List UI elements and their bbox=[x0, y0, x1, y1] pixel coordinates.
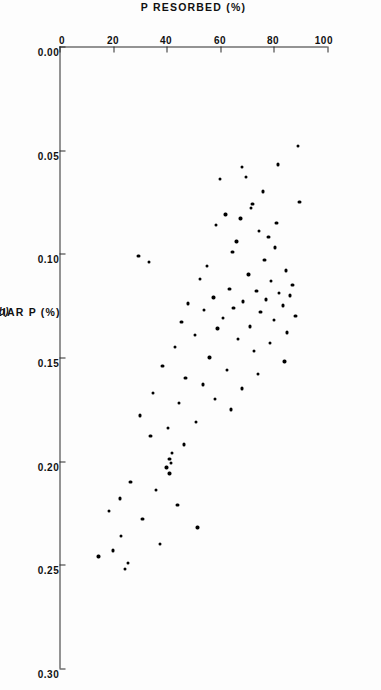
data-point bbox=[269, 279, 272, 282]
data-point bbox=[158, 542, 161, 545]
data-point bbox=[96, 554, 99, 557]
data-point bbox=[136, 254, 139, 257]
data-point bbox=[234, 239, 237, 242]
data-point bbox=[119, 534, 122, 537]
data-point bbox=[202, 308, 205, 311]
data-point bbox=[276, 162, 279, 165]
y-tick-mark bbox=[220, 46, 221, 52]
data-point bbox=[201, 382, 204, 385]
data-point bbox=[281, 303, 284, 306]
panel-label: (b) bbox=[0, 306, 9, 317]
data-point bbox=[249, 206, 252, 209]
data-point bbox=[296, 144, 299, 147]
data-point bbox=[221, 316, 224, 319]
data-point bbox=[240, 165, 243, 168]
data-point bbox=[198, 277, 201, 280]
data-point bbox=[148, 434, 151, 437]
data-point bbox=[126, 561, 129, 564]
x-tick-label: 0.15 bbox=[37, 357, 58, 368]
data-point bbox=[277, 291, 280, 294]
data-point bbox=[274, 221, 277, 224]
data-point bbox=[262, 258, 265, 261]
data-point bbox=[256, 372, 259, 375]
y-tick-label: 100 bbox=[314, 34, 332, 45]
data-point bbox=[223, 212, 226, 215]
data-point bbox=[173, 345, 176, 348]
y-tick-mark bbox=[166, 46, 167, 52]
y-axis-title: P RESORBED (%) bbox=[140, 0, 245, 12]
data-point bbox=[111, 548, 114, 551]
data-point bbox=[166, 426, 169, 429]
data-point bbox=[107, 509, 110, 512]
data-point bbox=[258, 310, 261, 313]
data-point bbox=[246, 272, 249, 275]
data-point bbox=[147, 260, 150, 263]
x-tick-label: 0.25 bbox=[37, 564, 58, 575]
data-point bbox=[254, 289, 257, 292]
y-axis-line bbox=[59, 46, 327, 47]
data-point bbox=[238, 216, 241, 219]
y-tick-label: 20 bbox=[106, 34, 118, 45]
y-tick-label: 60 bbox=[213, 34, 225, 45]
data-point bbox=[218, 177, 221, 180]
x-tick-label: 0.05 bbox=[37, 150, 58, 161]
x-tick-mark bbox=[59, 150, 65, 151]
data-point bbox=[193, 333, 196, 336]
data-point bbox=[250, 202, 253, 205]
y-tick-mark bbox=[273, 46, 274, 52]
y-tick-label: 80 bbox=[267, 34, 279, 45]
x-tick-mark bbox=[59, 357, 65, 358]
data-point bbox=[236, 337, 239, 340]
y-tick-mark bbox=[113, 46, 114, 52]
data-point bbox=[297, 200, 300, 203]
data-point bbox=[244, 175, 247, 178]
data-point bbox=[165, 465, 168, 468]
data-point bbox=[273, 245, 276, 248]
data-point bbox=[175, 503, 178, 506]
data-point bbox=[183, 376, 186, 379]
data-point bbox=[205, 264, 208, 267]
data-point bbox=[177, 401, 180, 404]
data-point bbox=[257, 229, 260, 232]
data-point bbox=[186, 301, 189, 304]
data-point bbox=[170, 451, 173, 454]
data-point bbox=[215, 326, 218, 329]
data-point bbox=[241, 299, 244, 302]
data-point bbox=[266, 235, 269, 238]
scatter-figure: 0.000.050.100.150.200.250.30 02040608010… bbox=[0, 0, 381, 690]
data-point bbox=[140, 517, 143, 520]
data-point bbox=[282, 359, 285, 362]
data-point bbox=[285, 330, 288, 333]
data-point bbox=[232, 306, 235, 309]
data-point bbox=[240, 386, 243, 389]
x-tick-mark bbox=[59, 253, 65, 254]
data-point bbox=[182, 442, 185, 445]
x-tick-mark bbox=[59, 461, 65, 462]
data-point bbox=[118, 496, 121, 499]
data-point bbox=[167, 471, 170, 474]
data-point bbox=[151, 391, 154, 394]
data-point bbox=[290, 283, 293, 286]
x-tick-label: 0.00 bbox=[37, 46, 58, 57]
data-point bbox=[138, 413, 141, 416]
data-point bbox=[227, 287, 230, 290]
data-point bbox=[284, 268, 287, 271]
data-point bbox=[179, 320, 182, 323]
data-point bbox=[225, 368, 228, 371]
data-point bbox=[211, 295, 214, 298]
y-tick-label: 0 bbox=[58, 34, 64, 45]
y-tick-label: 40 bbox=[160, 34, 172, 45]
data-point bbox=[268, 341, 271, 344]
data-point bbox=[261, 189, 264, 192]
x-tick-label: 0.20 bbox=[37, 461, 58, 472]
data-point bbox=[214, 223, 217, 226]
data-point bbox=[272, 318, 275, 321]
data-point bbox=[123, 567, 126, 570]
y-tick-mark bbox=[327, 46, 328, 52]
data-point bbox=[230, 250, 233, 253]
data-point bbox=[195, 525, 198, 528]
rotated-figure-stage: 0.000.050.100.150.200.250.30 02040608010… bbox=[0, 0, 381, 690]
data-point bbox=[207, 355, 210, 358]
data-point bbox=[169, 461, 172, 464]
x-tick-label: 0.30 bbox=[37, 668, 58, 679]
